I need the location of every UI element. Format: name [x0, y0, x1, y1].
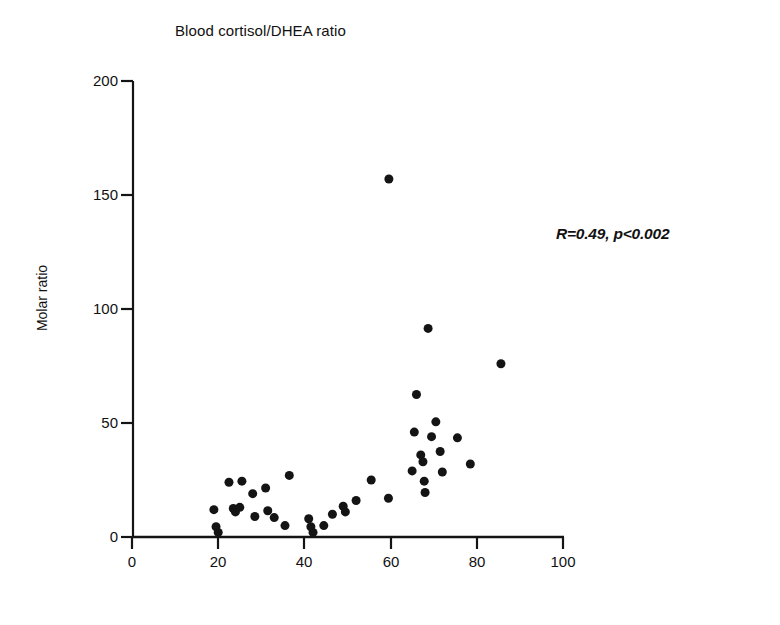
data-point: [341, 507, 350, 516]
data-point: [410, 428, 419, 437]
data-point: [250, 512, 259, 521]
data-point: [421, 488, 430, 497]
data-point: [466, 460, 475, 469]
y-axis-ticks: [121, 81, 133, 537]
data-point: [453, 433, 462, 442]
data-point: [438, 468, 447, 477]
data-point: [424, 324, 433, 333]
data-point: [420, 477, 429, 486]
data-point: [214, 528, 223, 537]
data-point: [261, 483, 270, 492]
data-point: [352, 496, 361, 505]
axis-lines: [132, 81, 564, 537]
data-point: [427, 432, 436, 441]
data-point: [319, 521, 328, 530]
data-point: [270, 513, 279, 522]
data-point: [309, 528, 318, 537]
data-point: [328, 510, 337, 519]
data-point-group: [209, 175, 505, 537]
data-point: [248, 489, 257, 498]
data-point: [384, 175, 393, 184]
data-point: [285, 471, 294, 480]
data-point: [304, 514, 313, 523]
data-point: [384, 494, 393, 503]
data-point: [418, 457, 427, 466]
data-point: [436, 447, 445, 456]
data-point: [431, 417, 440, 426]
data-point: [408, 466, 417, 475]
data-point: [281, 521, 290, 530]
data-point: [209, 505, 218, 514]
data-point: [263, 506, 272, 515]
data-point: [496, 359, 505, 368]
data-point: [224, 478, 233, 487]
scatter-plot-figure: Blood cortisol/DHEA ratio R=0.49, p<0.00…: [0, 0, 780, 625]
data-point: [367, 476, 376, 485]
data-point: [237, 477, 246, 486]
plot-canvas: [0, 0, 780, 625]
data-point: [412, 390, 421, 399]
x-axis-ticks: [132, 537, 563, 549]
data-point: [235, 503, 244, 512]
